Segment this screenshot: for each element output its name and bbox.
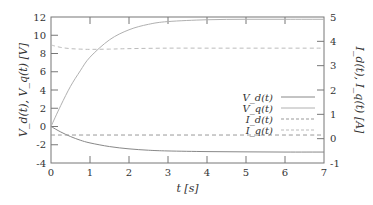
x-tick-label: 5 [243,167,249,178]
y-tick-label-right: 5 [330,12,336,23]
y-tick-label-left: 6 [40,66,46,77]
y-tick-label-right: 3 [330,60,336,71]
y-axis-label-right: I_d(t), I_q(t) [A] [353,46,366,135]
x-tick-label: 2 [126,167,132,178]
y-tick-label-right: 2 [330,85,336,96]
y-tick-label-left: 8 [40,48,46,59]
y-tick-label-left: -4 [36,158,46,169]
y-tick-label-left: 12 [33,12,46,23]
series-line-1 [51,19,324,126]
chart: 01234567-4-2024681012-1012345t [s]V_d(t)… [0,0,373,205]
y-tick-label-left: 0 [40,121,46,132]
x-tick-label: 6 [282,167,288,178]
y-tick-label-right: 0 [330,133,336,144]
plot-frame [51,17,324,163]
x-tick-label: 4 [204,167,210,178]
y-tick-label-left: 2 [40,103,46,114]
y-tick-label-left: -2 [36,139,46,150]
y-tick-label-left: 4 [40,85,46,96]
x-tick-label: 0 [48,167,54,178]
x-tick-label: 7 [321,167,327,178]
legend-label: I_q(t) [245,125,273,137]
y-tick-label-right: 1 [330,109,336,120]
series-line-3 [51,45,324,49]
x-axis-label: t [s] [176,182,199,195]
y-tick-label-right: 4 [330,36,336,47]
y-tick-label-right: -1 [330,158,340,169]
y-tick-label-left: 10 [33,30,46,41]
x-tick-label: 3 [165,167,171,178]
x-tick-label: 1 [87,167,93,178]
y-axis-label-left: V_d(t), V_q(t) [V] [17,42,30,137]
